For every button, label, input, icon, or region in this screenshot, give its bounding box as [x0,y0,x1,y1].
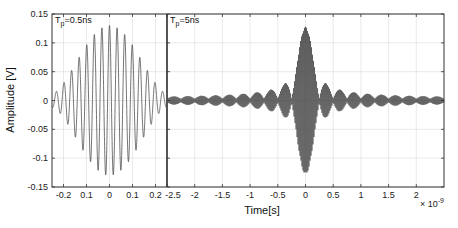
x-tick-label: -1 [246,190,254,200]
x-tick-label: -2.5 [165,190,181,200]
y-tick-label: -0.1 [32,153,48,163]
x-tick-label: -1.5 [215,190,231,200]
x-tick-label: 0 [303,190,308,200]
x-tick-label: 0.1 [80,190,93,200]
x-multiplier: × 10-9 [420,197,444,209]
x-tick-label: -0.5 [270,190,286,200]
y-tick-label: -0.15 [27,182,48,192]
y-tick-label: 0.05 [30,67,48,77]
x-tick-label: -2 [191,190,199,200]
y-tick-label: 0.15 [30,9,48,19]
x-tick-label: 1.5 [382,190,395,200]
x-tick-label: 0 [107,190,112,200]
signal-traces [52,26,444,175]
y-tick-label: 0 [43,96,48,106]
x-tick-label: 0.2 [149,190,162,200]
right-annotation: Tp=5ns [170,15,200,28]
x-axis-label: Time[s] [244,204,280,216]
y-tick-label: 0.1 [35,38,48,48]
y-tick-label: -0.05 [27,124,48,134]
x-tick-label: 0.5 [327,190,340,200]
x-tick-label: -0.2 [56,190,72,200]
x-tick-label: 2 [414,190,419,200]
y-axis-label: Amplitude [V] [4,67,16,132]
x-tick-label: 1 [358,190,363,200]
figure: 0.150.10.050-0.05-0.1-0.15-0.20.100.10.2… [0,0,458,228]
x-tick-label: 0.1 [126,190,139,200]
